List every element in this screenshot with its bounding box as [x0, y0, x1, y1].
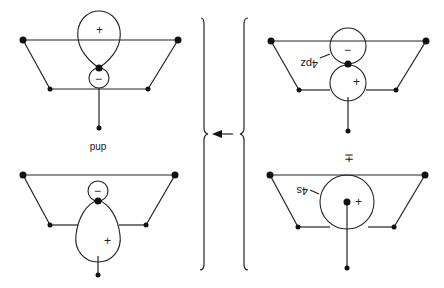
orbital-label-4pz: 4pz — [300, 58, 318, 70]
panel-top-left: + − — [20, 11, 182, 131]
plus-minus-sign: ∓ — [344, 151, 354, 165]
orbital-label-4s: 4s — [296, 185, 308, 197]
panel-bottom-left: − + — [20, 172, 179, 278]
positive-lobe — [330, 65, 366, 101]
panel-top-right: − + 4pz — [268, 28, 430, 134]
orbital-diagram: + − pup − + — [0, 0, 444, 288]
left-brace — [200, 18, 208, 270]
minus-sign: − — [94, 184, 101, 198]
brace-arrow-group — [200, 18, 248, 270]
plus-sign: + — [104, 234, 111, 248]
positive-lobe — [76, 200, 121, 262]
panel-bottom-right: ∓ + 4s — [267, 151, 429, 271]
pup-label: pup — [90, 141, 107, 152]
arrow-left-icon — [212, 130, 222, 138]
right-brace — [240, 18, 248, 270]
minus-sign: − — [95, 72, 102, 86]
plus-sign: + — [355, 195, 362, 209]
plus-sign: + — [96, 23, 103, 37]
plus-sign: + — [353, 75, 360, 89]
minus-sign: − — [344, 43, 351, 57]
